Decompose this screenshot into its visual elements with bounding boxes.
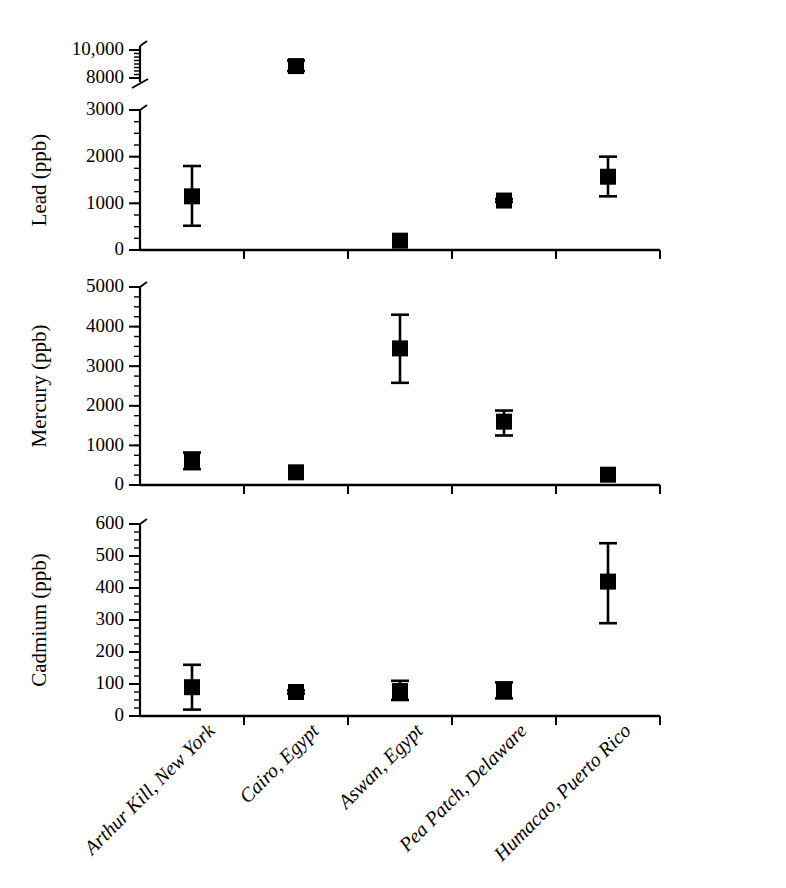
figure-panel-chart: 0100020003000Lead (ppb) 0100020003000400…: [0, 0, 786, 888]
cadmium-datapoint: [287, 684, 305, 700]
cadmium-y-tick-label: 300: [96, 608, 125, 629]
mercury-datapoint: [600, 467, 616, 483]
lead-break-datapoint: [287, 58, 305, 74]
lead-datapoint: [392, 233, 408, 249]
lead-marker-square: [184, 188, 200, 204]
mercury-y-tick-label: 0: [115, 473, 125, 494]
cadmium-y-tick-label: 0: [115, 704, 125, 725]
mercury-marker-square: [288, 464, 304, 480]
mercury-y-axis-title: Mercury (ppb): [27, 324, 51, 447]
cadmium-y-tick-label: 400: [96, 576, 125, 597]
cadmium-datapoint: [391, 681, 409, 700]
lead-y-tick-label: 2000: [86, 145, 124, 166]
cadmium-y-tick-label: 500: [96, 544, 125, 565]
mercury-marker-square: [600, 467, 616, 483]
mercury-y-tick-label: 3000: [86, 355, 124, 376]
cadmium-marker-square: [600, 574, 616, 590]
mercury-y-tick-label: 5000: [86, 275, 124, 296]
mercury-marker-square: [496, 414, 512, 430]
lead-marker-square: [496, 193, 512, 209]
lead-break-tick-label: 8000: [86, 66, 124, 87]
mercury-y-tick-label: 2000: [86, 394, 124, 415]
cadmium-marker-square: [184, 679, 200, 695]
cadmium-marker-square: [288, 684, 304, 700]
cadmium-marker-square: [496, 682, 512, 698]
lead-y-axis-title: Lead (ppb): [27, 134, 51, 227]
lead-break-marker-square: [288, 58, 304, 74]
mercury-datapoint: [288, 464, 304, 480]
lead-y-tick-label: 0: [115, 238, 125, 259]
mercury-marker-square: [184, 453, 200, 469]
cadmium-y-tick-label: 100: [96, 672, 125, 693]
cadmium-y-axis-title: Cadmium (ppb): [27, 553, 51, 687]
mercury-marker-square: [392, 340, 408, 356]
cadmium-datapoint: [495, 682, 513, 698]
lead-y-tick-label: 3000: [86, 98, 124, 119]
cadmium-marker-square: [392, 683, 408, 699]
lead-y-tick-label: 1000: [86, 192, 124, 213]
cadmium-y-tick-label: 600: [96, 512, 125, 533]
multi-panel-error-bar-chart: 0100020003000Lead (ppb) 0100020003000400…: [0, 0, 786, 888]
mercury-y-tick-label: 1000: [86, 434, 124, 455]
mercury-datapoint: [183, 453, 201, 470]
lead-break-tick-label: 10,000: [72, 38, 124, 59]
lead-marker-square: [392, 233, 408, 249]
lead-marker-square: [600, 169, 616, 185]
cadmium-y-tick-label: 200: [96, 640, 125, 661]
mercury-y-tick-label: 4000: [86, 315, 124, 336]
lead-datapoint: [495, 193, 513, 209]
